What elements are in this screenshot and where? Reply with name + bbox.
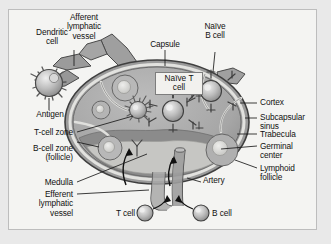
- label-medulla: Medulla: [9, 178, 73, 187]
- lymphoid-follicle: [92, 101, 110, 119]
- germinal-center: [118, 81, 131, 94]
- arrowhead: [164, 195, 171, 203]
- lymphoid-follicle: [98, 136, 122, 160]
- label-afferent-lymphatic-vessel: Afferent lymphatic vessel: [49, 13, 119, 41]
- label-b-cell-zone: B-cell zone (follicle): [3, 144, 73, 163]
- label-germinal-center: Germinal center: [260, 142, 318, 161]
- label-capsule: Capsule: [137, 40, 193, 49]
- lymphoid-follicle: [206, 134, 238, 166]
- label-lymphoid-follicle: Lymphoid follicle: [260, 164, 318, 183]
- germinal-center: [104, 142, 115, 153]
- legend-cell-t: [137, 205, 153, 221]
- label-artery: Artery: [203, 176, 251, 185]
- label-b-cell-legend: B cell: [212, 209, 252, 218]
- label-trabecula: Trabecula: [260, 130, 318, 139]
- label-antigen: Antigen: [19, 110, 81, 119]
- label-cortex: Cortex: [260, 98, 318, 107]
- label-t-cell-legend: T cell: [97, 209, 135, 218]
- germinal-center: [96, 105, 104, 113]
- label-t-cell-zone: T-cell zone: [7, 128, 73, 137]
- dendritic-cell-external: [31, 67, 66, 100]
- diagram-panel: Dendritic cell Afferent lymphatic vessel…: [8, 9, 317, 230]
- label-naive-b-cell: Naïve B cell: [187, 22, 243, 41]
- germinal-center: [213, 141, 228, 156]
- antigen-particle: [49, 73, 58, 82]
- lymphoid-follicle: [112, 75, 138, 101]
- label-naive-t-cell: Naïve T cell: [155, 72, 203, 95]
- legend-cell-b: [193, 205, 209, 221]
- label-efferent-lymphatic-vessel: Efferent lymphatic vessel: [7, 190, 73, 218]
- figure-container: Dendritic cell Afferent lymphatic vessel…: [0, 0, 331, 244]
